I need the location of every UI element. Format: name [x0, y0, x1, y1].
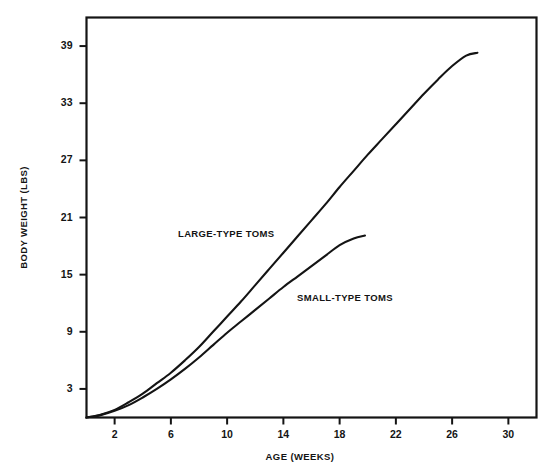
y-tick-label: 33 — [47, 96, 73, 108]
chart-figure: BODY WEIGHT (LBS) AGE (WEEKS) 3915212733… — [0, 0, 552, 472]
y-tick-label: 39 — [47, 39, 73, 51]
y-tick-label: 3 — [47, 382, 73, 394]
y-axis-title: BODY WEIGHT (LBS) — [18, 138, 29, 298]
x-tick-label: 14 — [270, 428, 296, 440]
x-tick-label: 22 — [383, 428, 409, 440]
y-tick-label: 15 — [47, 268, 73, 280]
y-tick-label: 27 — [47, 153, 73, 165]
series-annotation-small-type-toms: SMALL-TYPE TOMS — [297, 292, 393, 303]
chart-background — [0, 0, 552, 472]
y-tick-label: 9 — [47, 325, 73, 337]
x-tick-label: 6 — [158, 428, 184, 440]
x-tick-label: 18 — [327, 428, 353, 440]
y-tick-label: 21 — [47, 211, 73, 223]
x-tick-label: 10 — [214, 428, 240, 440]
x-tick-label: 26 — [439, 428, 465, 440]
series-annotation-large-type-toms: LARGE-TYPE TOMS — [178, 228, 274, 239]
x-axis-title: AGE (WEEKS) — [180, 451, 420, 462]
x-tick-label: 30 — [495, 428, 521, 440]
x-tick-label: 2 — [102, 428, 128, 440]
line-chart-canvas — [0, 0, 552, 472]
